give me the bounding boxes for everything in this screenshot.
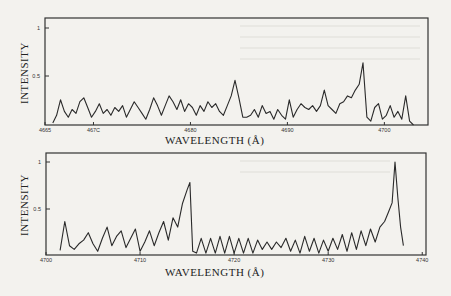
spectra-figure: 1 0.5 INTENSITY 4665467C468046904700 WAV… (0, 0, 451, 296)
bottom-x-axis: 47004710472047304740 (40, 252, 428, 263)
xtick-label: 4700 (40, 257, 52, 263)
xtick-label: 4730 (322, 257, 334, 263)
top-ytick-0.5: 0.5 (32, 73, 40, 79)
bottom-spectrum-line (60, 162, 403, 253)
top-ytick-1: 1 (37, 25, 40, 31)
bottom-ytick-1: 1 (38, 159, 41, 165)
xtick-label: 4680 (184, 127, 196, 133)
top-x-axis: 4665467C468046904700 (39, 122, 391, 133)
xtick-label: 4700 (378, 127, 390, 133)
top-y-axis: 1 0.5 INTENSITY (18, 25, 49, 104)
xtick-label: 467C (87, 127, 100, 133)
top-spectrum-line (53, 63, 414, 125)
xtick-label: 4665 (39, 127, 51, 133)
bottom-ytick-0.5: 0.5 (33, 206, 41, 212)
xtick-label: 4720 (228, 257, 240, 263)
top-plot-frame (45, 18, 428, 125)
top-x-axis-label: WAVELENGTH (Å) (165, 134, 264, 147)
page-bleed-through (240, 25, 420, 173)
bottom-y-axis-label: INTENSITY (18, 174, 30, 236)
top-y-axis-label: INTENSITY (18, 42, 30, 104)
xtick-label: 4690 (281, 127, 293, 133)
bottom-plot-frame (46, 153, 426, 255)
xtick-label: 4740 (416, 257, 428, 263)
bottom-y-axis: 1 0.5 INTENSITY (18, 159, 50, 236)
xtick-label: 4710 (134, 257, 146, 263)
bottom-x-axis-label: WAVELENGTH (Å) (165, 266, 264, 279)
